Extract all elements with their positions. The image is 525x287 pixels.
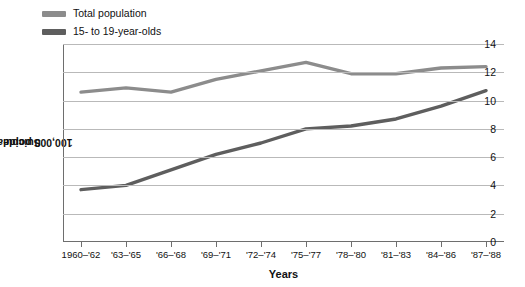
y-axis-tick-label: 6 <box>490 151 496 163</box>
x-axis-tick <box>441 242 442 247</box>
x-axis-tick-label: '63–'65 <box>111 249 141 260</box>
legend-swatch-total-population <box>42 11 66 17</box>
x-axis-tick-label: '87–'88 <box>471 249 501 260</box>
plot-area: 024681012141960–'62'63–'65'66–'68'69–'71… <box>63 44 504 242</box>
y-axis-tick-label: 2 <box>490 208 496 220</box>
gridline <box>63 72 504 73</box>
x-axis-tick <box>171 242 172 247</box>
gridline <box>63 101 504 102</box>
legend-label-total-population: Total population <box>73 8 147 19</box>
x-axis-tick-label: '69–'71 <box>201 249 231 260</box>
x-axis-tick-label: '81–'83 <box>381 249 411 260</box>
gridline <box>63 214 504 215</box>
y-axis-title-line2: 100,000 population <box>0 137 72 149</box>
x-axis-tick-label: '72–'74 <box>246 249 276 260</box>
x-axis-tick <box>396 242 397 247</box>
x-axis-tick-label: '75–'77 <box>291 249 321 260</box>
y-axis-title: Suicide rate per 100,000 population <box>0 44 26 242</box>
x-axis-tick-label: '66–'68 <box>156 249 186 260</box>
legend-swatch-teens <box>42 29 66 35</box>
x-axis-tick <box>351 242 352 247</box>
series-lines <box>63 44 504 242</box>
x-axis-tick-label: 1960–'62 <box>62 249 101 260</box>
gridline <box>63 129 504 130</box>
y-axis-tick-label: 10 <box>484 95 496 107</box>
x-axis-tick-label: '78–'80 <box>336 249 366 260</box>
x-axis-tick <box>81 242 82 247</box>
y-axis-tick-label: 8 <box>490 123 496 135</box>
line-total-population <box>81 62 486 92</box>
y-axis-tick-label: 14 <box>484 38 496 50</box>
x-axis-tick-label: '84–'86 <box>426 249 456 260</box>
x-axis-tick <box>216 242 217 247</box>
x-axis-tick <box>486 242 487 247</box>
gridline <box>63 185 504 186</box>
legend-item-total-population: Total population <box>42 6 161 21</box>
y-axis-tick-label: 0 <box>490 236 496 248</box>
gridline <box>63 157 504 158</box>
x-axis-tick <box>261 242 262 247</box>
suicide-rate-line-chart: Total population 15- to 19-year-olds Sui… <box>0 0 525 287</box>
y-axis-tick-label: 12 <box>484 66 496 78</box>
line-teens <box>81 91 486 190</box>
legend-label-teens: 15- to 19-year-olds <box>73 26 161 37</box>
chart-legend: Total population 15- to 19-year-olds <box>42 6 161 42</box>
gridline <box>63 44 504 45</box>
legend-item-teens: 15- to 19-year-olds <box>42 24 161 39</box>
x-axis-title: Years <box>63 268 504 280</box>
y-axis-tick-label: 4 <box>490 179 496 191</box>
x-axis-tick <box>126 242 127 247</box>
x-axis-tick <box>306 242 307 247</box>
